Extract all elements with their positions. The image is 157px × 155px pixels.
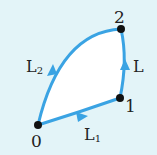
arrow-l2-icon — [47, 64, 57, 76]
node-1 — [116, 94, 124, 102]
edge-l1-label: L1 — [84, 125, 101, 144]
node-0-label: 0 — [31, 131, 42, 151]
arrow-l1-icon — [76, 112, 88, 122]
path-diagram: 0 1 2 L2 L L1 — [0, 0, 157, 155]
diagram-svg: 0 1 2 L2 L L1 — [0, 0, 157, 155]
node-2-label: 2 — [114, 7, 125, 27]
edge-l-label: L — [133, 57, 144, 76]
edge-l2-label: L2 — [26, 57, 43, 76]
node-1-label: 1 — [125, 96, 136, 116]
node-0 — [34, 121, 42, 129]
